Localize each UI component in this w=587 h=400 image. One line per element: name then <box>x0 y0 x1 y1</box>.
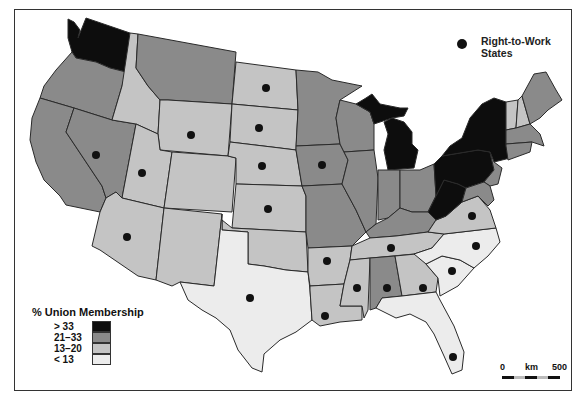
rtw-dot-al <box>383 284 391 292</box>
legend-title: % Union Membership <box>32 306 144 318</box>
legend-row-13-20: 13–20 <box>54 343 111 354</box>
scale-ruler <box>502 376 560 379</box>
scale-bar: 0 km 500 <box>500 362 570 374</box>
legend-label: 13–20 <box>54 343 92 354</box>
legend-swatch <box>92 343 111 354</box>
rtw-dot-nc <box>472 242 480 250</box>
rtw-dot-az <box>123 233 131 241</box>
rtw-dot-nd <box>262 84 270 92</box>
legend-row-lt13: < 13 <box>54 354 111 365</box>
state-co <box>164 152 236 212</box>
rtw-dot-sc <box>448 267 456 275</box>
state-ct <box>506 142 532 160</box>
rtw-dot-va <box>468 212 476 220</box>
state-fl <box>376 292 464 374</box>
rtw-dot-ne <box>258 162 266 170</box>
rtw-dot-ia <box>318 161 326 169</box>
rtw-dot-tn <box>387 244 395 252</box>
rtw-dot-ut <box>138 169 146 177</box>
rtw-dot-ms <box>353 284 361 292</box>
state-wy <box>158 100 232 156</box>
rtw-dot-fl <box>449 353 457 361</box>
rtw-dot-ar <box>323 257 331 265</box>
scale-unit: km <box>525 362 538 372</box>
legend-label: 21–33 <box>54 332 92 343</box>
rtw-dot-icon <box>457 39 467 49</box>
rtw-dot-tx <box>246 294 254 302</box>
right-to-work-legend: Right-to-Work States <box>457 35 561 59</box>
scale-start: 0 <box>500 362 505 372</box>
state-me <box>522 72 562 124</box>
state-mi-lower <box>384 118 418 170</box>
union-membership-legend: > 33 21–33 13–20 < 13 <box>54 321 111 365</box>
legend-swatch <box>92 354 111 365</box>
state-oh <box>400 164 436 212</box>
legend-row-gt33: > 33 <box>54 321 111 332</box>
rtw-dot-wy <box>187 131 195 139</box>
legend-swatch <box>92 332 111 343</box>
rtw-dot-sd <box>255 124 263 132</box>
legend-label: < 13 <box>54 354 92 365</box>
rtw-dot-nv <box>92 151 100 159</box>
rtw-dot-ga <box>419 284 427 292</box>
rtw-legend-label: Right-to-Work States <box>481 35 561 59</box>
legend-label: > 33 <box>54 321 92 332</box>
legend-swatch <box>92 321 111 332</box>
state-nm <box>156 208 222 286</box>
scale-end: 500 <box>552 362 567 372</box>
rtw-dot-la <box>321 312 329 320</box>
legend-row-21-33: 21–33 <box>54 332 111 343</box>
rtw-dot-ks <box>264 205 272 213</box>
